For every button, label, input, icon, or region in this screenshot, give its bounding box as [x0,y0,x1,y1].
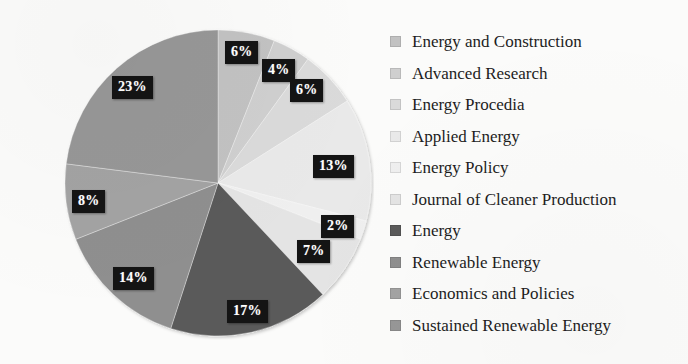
pie-percent-label: 6% [225,41,258,64]
pie-slice-group [65,30,371,336]
legend-item[interactable]: Energy [390,215,684,247]
legend-swatch-icon [390,68,401,79]
legend: Energy and ConstructionAdvanced Research… [390,26,684,341]
legend-item-label: Advanced Research [412,65,547,82]
legend-swatch-icon [390,320,401,331]
legend-item[interactable]: Advanced Research [390,58,684,90]
pie-percent-label: 13% [313,155,354,178]
legend-item-label: Journal of Cleaner Production [412,191,616,208]
legend-item[interactable]: Renewable Energy [390,247,684,279]
legend-item[interactable]: Sustained Renewable Energy [390,310,684,342]
pie-chart [62,26,374,340]
pie-percent-label: 17% [227,300,268,323]
pie-percent-label: 8% [72,190,105,213]
legend-swatch-icon [390,225,401,236]
pie-svg [62,26,374,340]
legend-item-label: Energy Procedia [412,96,525,113]
legend-item[interactable]: Energy Procedia [390,89,684,121]
legend-swatch-icon [390,99,401,110]
legend-item[interactable]: Journal of Cleaner Production [390,184,684,216]
legend-item-label: Sustained Renewable Energy [412,317,611,334]
legend-swatch-icon [390,257,401,268]
pie-percent-label: 7% [297,240,330,263]
pie-percent-label: 6% [290,79,323,102]
legend-item-label: Energy Policy [412,159,508,176]
pie-percent-label: 23% [112,76,153,99]
legend-item[interactable]: Economics and Policies [390,278,684,310]
pie-chart-figure: 6%4%6%13%2%7%17%14%8%23% Energy and Cons… [0,0,688,364]
legend-swatch-icon [390,288,401,299]
pie-percent-label: 2% [321,215,354,238]
legend-item[interactable]: Energy Policy [390,152,684,184]
legend-item-label: Economics and Policies [412,285,574,302]
legend-swatch-icon [390,194,401,205]
legend-item-label: Applied Energy [412,128,520,145]
pie-percent-label: 14% [113,267,154,290]
legend-item-label: Renewable Energy [412,254,541,271]
legend-item[interactable]: Applied Energy [390,121,684,153]
legend-item-label: Energy and Construction [412,33,582,50]
legend-swatch-icon [390,36,401,47]
legend-swatch-icon [390,131,401,142]
pie-slice[interactable] [66,30,218,183]
legend-item[interactable]: Energy and Construction [390,26,684,58]
legend-swatch-icon [390,162,401,173]
legend-item-label: Energy [412,222,461,239]
